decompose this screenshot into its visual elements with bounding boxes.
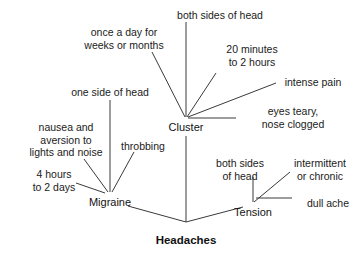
- edge-cluster-onceaday: [152, 52, 185, 117]
- label-intense-pain: intense pain: [285, 76, 342, 89]
- edge-migraine-throbbing: [112, 152, 134, 192]
- label-once-a-day: once a day for weeks or months: [84, 26, 163, 51]
- label-both-sides-of-head-cluster: both sides of head: [177, 9, 263, 22]
- node-tension: Tension: [234, 206, 272, 219]
- node-cluster: Cluster: [169, 121, 204, 134]
- edge-root-migraine: [128, 206, 186, 222]
- label-both-sides-of-head-tension: both sides of head: [216, 157, 264, 182]
- label-nausea-aversion: nausea and aversion to lights and noise: [30, 121, 103, 159]
- edge-cluster-20min: [187, 73, 216, 117]
- label-throbbing: throbbing: [121, 140, 165, 153]
- label-one-side-of-head: one side of head: [71, 86, 149, 99]
- label-dull-ache: dull ache: [307, 197, 349, 210]
- node-headaches-root: Headaches: [156, 234, 217, 247]
- label-intermittent-or-chronic: intermittent or chronic: [294, 157, 346, 182]
- edge-migraine-4hours: [76, 183, 105, 193]
- concept-map-diagram: both sides of head once a day for weeks …: [0, 0, 364, 258]
- label-four-hours-to-two-days: 4 hours to 2 days: [33, 168, 76, 193]
- node-migraine: Migraine: [89, 196, 131, 209]
- label-twenty-minutes: 20 minutes to 2 hours: [226, 43, 277, 68]
- label-eyes-teary-nose-clogged: eyes teary, nose clogged: [262, 105, 324, 130]
